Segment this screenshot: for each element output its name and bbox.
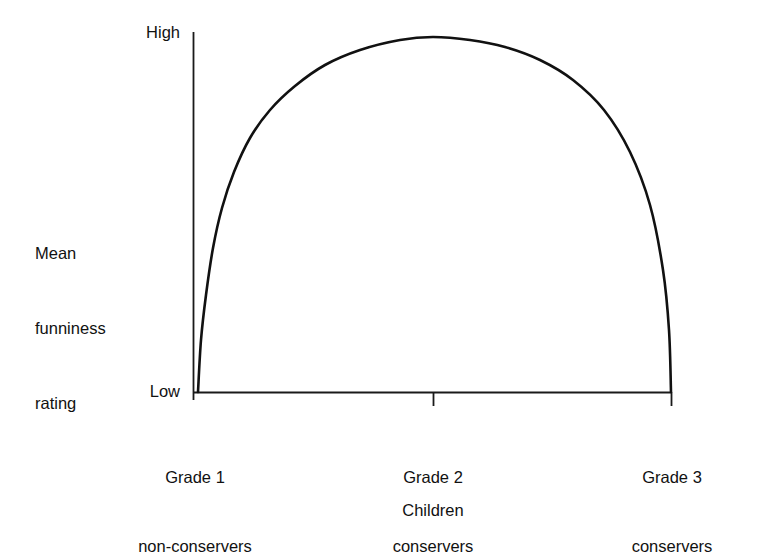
x-tick-label-grade2-line-2: conservers [333, 535, 533, 556]
x-tick-label-grade2: Grade 2 conservers [333, 420, 533, 556]
x-tick-label-grade3-line-1: Grade 3 [572, 466, 759, 489]
x-tick-label-grade1-line-2: non-conservers [95, 535, 295, 556]
y-axis-title-line-2: funniness [35, 316, 175, 341]
x-tick-label-grade1-line-1: Grade 1 [95, 466, 295, 489]
x-tick-label-grade2-line-1: Grade 2 [333, 466, 533, 489]
x-tick-label-grade3: Grade 3 conservers [572, 420, 759, 556]
x-tick-label-grade3-line-2: conservers [572, 535, 759, 556]
x-tick-label-grade1: Grade 1 non-conservers [95, 420, 295, 556]
funniness-curve [198, 37, 671, 392]
y-axis-title-line-1: Mean [35, 241, 175, 266]
y-axis-high-label: High [108, 22, 180, 43]
x-axis-title: Children [333, 501, 533, 520]
y-axis-title-line-3: rating [35, 391, 175, 416]
